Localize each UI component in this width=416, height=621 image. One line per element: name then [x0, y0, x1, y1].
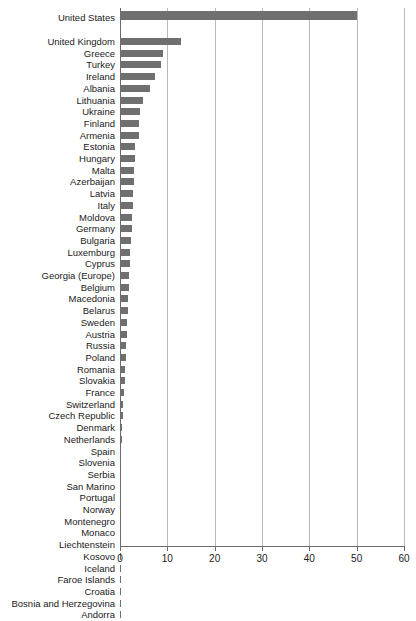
- bar: [120, 506, 121, 513]
- bar-row: Turkey: [0, 59, 416, 71]
- bar-row: Finland: [0, 118, 416, 130]
- category-label: Montenegro: [0, 516, 115, 528]
- category-label: Liechtenstein: [0, 539, 115, 551]
- bar-row: Slovakia: [0, 375, 416, 387]
- bar: [120, 529, 121, 536]
- bar: [120, 73, 155, 80]
- bar: [120, 331, 127, 338]
- category-label: Luxemburg: [0, 247, 115, 259]
- bar-row: Bosnia and Herzegovina: [0, 598, 416, 610]
- bar-row: Spain: [0, 446, 416, 458]
- category-label: Azerbaijan: [0, 176, 115, 188]
- category-label: Cyprus: [0, 258, 115, 270]
- bar: [120, 61, 161, 68]
- bar: [120, 11, 357, 20]
- bar: [120, 249, 130, 256]
- bar: [120, 214, 132, 221]
- category-label: Kosovo: [0, 551, 115, 563]
- bar: [120, 611, 121, 618]
- bar: [120, 143, 135, 150]
- category-label: Ukraine: [0, 106, 115, 118]
- bar: [120, 518, 121, 525]
- x-tick-label-30: 30: [256, 553, 267, 564]
- category-label: Norway: [0, 504, 115, 516]
- category-label: Iceland: [0, 563, 115, 575]
- bar-row: Poland: [0, 352, 416, 364]
- x-tick-label-20: 20: [209, 553, 220, 564]
- bar-row: Ukraine: [0, 106, 416, 118]
- bar-row: Sweden: [0, 317, 416, 329]
- bar-row: Italy: [0, 200, 416, 212]
- category-label: Hungary: [0, 153, 115, 165]
- bar: [120, 190, 133, 197]
- bar: [120, 167, 134, 174]
- bar-row: Romania: [0, 364, 416, 376]
- bar-row: Croatia: [0, 586, 416, 598]
- bar-row: Liechtenstein: [0, 539, 416, 551]
- category-label: Belarus: [0, 305, 115, 317]
- category-label: Ireland: [0, 71, 115, 83]
- bar: [120, 342, 126, 349]
- category-label: Latvia: [0, 188, 115, 200]
- bar-row: Hungary: [0, 153, 416, 165]
- bar-row: Macedonia: [0, 293, 416, 305]
- bar-row: Belarus: [0, 305, 416, 317]
- bar: [120, 459, 121, 466]
- bar-row: Austria: [0, 329, 416, 341]
- bar-row: Albania: [0, 83, 416, 95]
- category-label: Sweden: [0, 317, 115, 329]
- bar: [120, 600, 121, 607]
- category-label: Moldova: [0, 212, 115, 224]
- category-label: Bosnia and Herzegovina: [0, 598, 115, 610]
- bar-row: Ireland: [0, 71, 416, 83]
- x-tick-label-10: 10: [162, 553, 173, 564]
- category-label: Belgium: [0, 282, 115, 294]
- bar-row: Azerbaijan: [0, 176, 416, 188]
- category-label: United States: [0, 12, 115, 23]
- bar-row: Belgium: [0, 282, 416, 294]
- bar: [120, 225, 132, 232]
- category-label: Estonia: [0, 141, 115, 153]
- category-label: Andorra: [0, 609, 115, 621]
- x-tick-label-60: 60: [398, 553, 409, 564]
- bar-row: Monaco: [0, 527, 416, 539]
- category-label: Serbia: [0, 469, 115, 481]
- bar: [120, 424, 122, 431]
- bar: [120, 202, 133, 209]
- bar: [120, 366, 125, 373]
- bar: [120, 401, 123, 408]
- category-label: Portugal: [0, 492, 115, 504]
- bar-row: Montenegro: [0, 516, 416, 528]
- category-label: Finland: [0, 118, 115, 130]
- x-tick-0: [120, 546, 121, 551]
- bar-row: Norway: [0, 504, 416, 516]
- bar-row: Greece: [0, 48, 416, 60]
- x-tick-60: [404, 546, 405, 551]
- bar: [120, 120, 139, 127]
- bar-row: Germany: [0, 223, 416, 235]
- bar: [120, 97, 143, 104]
- x-tick-10: [167, 546, 168, 551]
- bar-row: Moldova: [0, 212, 416, 224]
- bar-row: Faroe Islands: [0, 574, 416, 586]
- category-label: Slovakia: [0, 375, 115, 387]
- bar: [120, 576, 121, 583]
- bar-row: United States: [0, 12, 416, 24]
- category-label: France: [0, 387, 115, 399]
- category-label: United Kingdom: [0, 36, 115, 48]
- x-tick-30: [262, 546, 263, 551]
- bar: [120, 448, 121, 455]
- bar-row: Russia: [0, 340, 416, 352]
- category-label: Georgia (Europe): [0, 270, 115, 282]
- category-label: Spain: [0, 446, 115, 458]
- bar-row: Lithuania: [0, 95, 416, 107]
- bar: [120, 471, 121, 478]
- category-label: Russia: [0, 340, 115, 352]
- category-label: Albania: [0, 83, 115, 95]
- bar: [120, 237, 131, 244]
- category-label: Lithuania: [0, 95, 115, 107]
- category-label: Malta: [0, 165, 115, 177]
- bar: [120, 260, 130, 267]
- bar-row: Slovenia: [0, 457, 416, 469]
